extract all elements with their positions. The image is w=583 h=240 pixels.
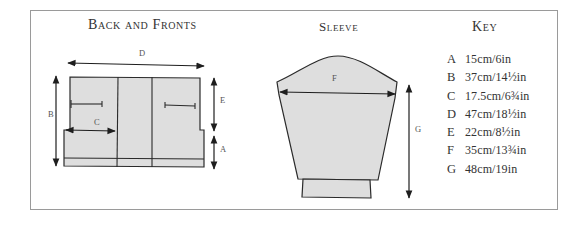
label-c: C: [94, 117, 100, 127]
key-item-e: E22cm/8½in: [447, 123, 529, 141]
sleeve-piece: [277, 56, 397, 198]
key-item-d: D47cm/18½in: [447, 105, 529, 123]
key-letter: D: [447, 105, 465, 123]
key-letter: G: [447, 160, 465, 178]
key-letter: A: [447, 50, 465, 68]
key-value: 37cm/14½in: [465, 70, 526, 84]
dimension-d-arrow: [68, 63, 204, 66]
key-letter: B: [447, 68, 465, 86]
key-value: 47cm/18½in: [465, 107, 526, 121]
key-letter: E: [447, 123, 465, 141]
label-f: F: [332, 73, 337, 83]
key-item-f: F35cm/13¾in: [447, 141, 529, 159]
key-item-b: B37cm/14½in: [447, 68, 529, 86]
label-e: E: [220, 95, 225, 105]
key-item-g: G48cm/19in: [447, 160, 529, 178]
label-b: B: [48, 109, 54, 119]
key-item-a: A15cm/6in: [447, 50, 529, 68]
key-letter: F: [447, 141, 465, 159]
key-value: 17.5cm/6¾in: [465, 89, 529, 103]
key-value: 35cm/13¾in: [465, 143, 526, 157]
label-d: D: [139, 48, 145, 58]
label-a: A: [220, 144, 227, 154]
back-and-fronts-piece: [64, 77, 204, 167]
key-item-c: C17.5cm/6¾in: [447, 87, 529, 105]
key-value: 15cm/6in: [465, 52, 511, 66]
key-value: 48cm/19in: [465, 162, 517, 176]
key-value: 22cm/8½in: [465, 125, 520, 139]
label-g: G: [415, 124, 421, 134]
key-letter: C: [447, 87, 465, 105]
key-list: A15cm/6in B37cm/14½in C17.5cm/6¾in D47cm…: [447, 50, 529, 178]
